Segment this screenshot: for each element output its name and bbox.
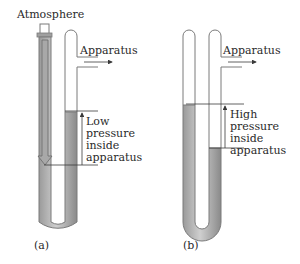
atmosphere-label: Atmosphere bbox=[16, 8, 84, 21]
panel-b: Apparatus High pressure inside apparatus… bbox=[183, 30, 287, 252]
pressure-label-b-line4: apparatus bbox=[230, 144, 287, 157]
tube-collar bbox=[37, 33, 52, 37]
apparatus-label-a: Apparatus bbox=[79, 44, 138, 57]
left-tube-b bbox=[183, 30, 195, 105]
caption-a: (a) bbox=[34, 239, 49, 252]
open-tube-cap bbox=[40, 24, 49, 34]
right-tube-a bbox=[65, 30, 77, 112]
liquid-column-b bbox=[183, 105, 221, 241]
panel-a: Atmosphere Apparatus Low pressure inside… bbox=[16, 8, 143, 252]
pressure-label-a-line4: apparatus bbox=[86, 151, 143, 164]
caption-b: (b) bbox=[183, 239, 199, 252]
manometer-diagram: Atmosphere Apparatus Low pressure inside… bbox=[0, 0, 300, 264]
right-tube-b bbox=[209, 30, 221, 148]
apparatus-label-b: Apparatus bbox=[222, 44, 281, 57]
